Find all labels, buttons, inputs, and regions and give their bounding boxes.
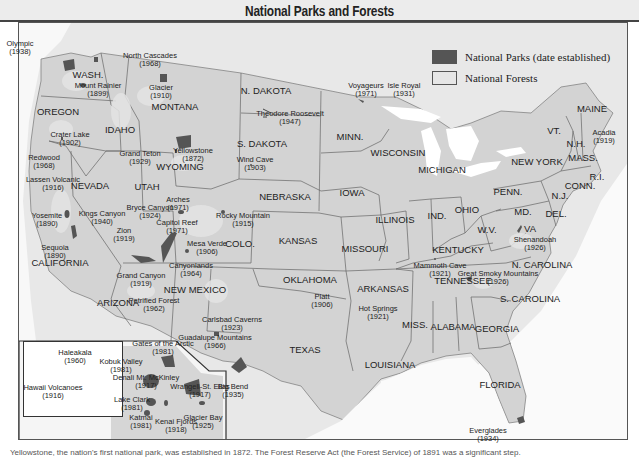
park-label: Sequoia(1890): [41, 244, 69, 260]
park-year: (1971): [166, 204, 189, 212]
park-label: Shenandoah(1926): [514, 236, 557, 252]
park-label: Grand Teton(1929): [119, 150, 160, 166]
park-label: Katmai(1981): [129, 414, 152, 430]
park-label: Platt(1906): [311, 293, 333, 309]
park-label: Denali Mt. McKinley(1917): [113, 374, 179, 390]
state-label: N.J.: [552, 191, 569, 201]
park-year: (1940): [79, 218, 126, 226]
park-label: Hot Springs(1921): [358, 305, 397, 321]
state-label: ALABAMA: [431, 322, 476, 332]
park-label: Redwood(1968): [28, 154, 60, 170]
park-year: (1971): [348, 90, 383, 98]
park-year: (1899): [75, 90, 122, 98]
park-year: (1926): [514, 244, 557, 252]
national-forests-swatch: [432, 71, 457, 85]
park-year: (1921): [358, 313, 397, 321]
park-label: Kobuk Valley(1981): [99, 358, 142, 374]
park-year: (1906): [187, 248, 227, 256]
state-label: DEL.: [545, 209, 566, 219]
park-year: (1917): [170, 391, 229, 399]
park-year: (1916): [23, 392, 82, 400]
state-label: WASH.: [73, 70, 104, 80]
state-label: UTAH: [134, 182, 159, 192]
park-year: (1947): [256, 118, 324, 126]
state-label: MINN.: [337, 132, 364, 142]
park-year: (1906): [311, 301, 333, 309]
park-label: Crater Lake(1902): [50, 131, 89, 147]
map-title: National Parks and Forests: [48, 3, 591, 19]
park-year: (1925): [184, 422, 223, 430]
state-label: OHIO: [455, 205, 479, 215]
park-year: (1926): [458, 278, 538, 286]
park-label: Zion(1919): [113, 227, 135, 243]
park-year: (1919): [113, 235, 135, 243]
state-label: MASS.: [568, 153, 598, 163]
national-parks-swatch: [432, 50, 457, 64]
park-label: Glacier Bay(1925): [184, 414, 223, 430]
park-year: (1938): [6, 48, 33, 56]
park-label: Acadia(1919): [593, 129, 616, 145]
park-year: (1915): [216, 220, 270, 228]
state-label: VT.: [547, 126, 561, 136]
state-label: KANSAS: [279, 236, 318, 246]
state-label: OREGON: [37, 107, 79, 117]
state-label: KENTUCKY: [432, 245, 484, 255]
state-label: MICHIGAN: [418, 165, 466, 175]
park-year: (1981): [129, 422, 152, 430]
park-year: (1903): [237, 164, 274, 172]
park-year: (1890): [32, 220, 63, 228]
park-year: (1981): [114, 404, 150, 412]
park-label: Lassen Volcanic(1916): [26, 176, 80, 192]
state-label: WYOMING: [156, 162, 204, 172]
park-year: (1971): [156, 227, 197, 235]
state-label: VA: [524, 224, 536, 234]
park-year: (1919): [593, 137, 616, 145]
park-year: (1917): [113, 382, 179, 390]
state-label: IOWA: [340, 188, 365, 198]
state-label: W.V.: [477, 225, 496, 235]
state-label: MD.: [514, 207, 531, 217]
legend-label: National Forests: [465, 72, 537, 84]
state-label: ILLINOIS: [375, 215, 414, 225]
park-label: Haleakala(1960): [58, 349, 91, 365]
park-year: (1968): [28, 162, 60, 170]
park-label: Mount Rainier(1899): [75, 82, 122, 98]
state-label: N.H.: [567, 139, 586, 149]
state-label: S. CAROLINA: [500, 294, 560, 304]
park-year: (1960): [58, 357, 91, 365]
state-label: FLORIDA: [479, 380, 520, 390]
park-year: (1923): [202, 324, 262, 332]
park-label: Grand Canyon(1919): [117, 272, 166, 288]
park-label: Carlsbad Caverns(1923): [202, 316, 262, 332]
state-label: NEW MEXICO: [164, 285, 226, 295]
state-label: TEXAS: [289, 345, 320, 355]
state-label: MAINE: [577, 104, 607, 114]
park-year: (1890): [41, 252, 69, 260]
park-label: Wind Cave(1903): [237, 156, 274, 172]
legend-item-national-parks: National Parks (date established): [432, 48, 610, 66]
state-label: CONN.: [565, 181, 596, 191]
park-year: (1964): [169, 270, 213, 278]
state-label: NEW YORK: [511, 157, 563, 167]
park-year: (1910): [149, 92, 173, 100]
title-bar: National Parks and Forests: [0, 0, 639, 22]
state-label: IND.: [428, 211, 447, 221]
state-label: MISSOURI: [342, 244, 389, 254]
park-label: Yosemite(1890): [32, 212, 63, 228]
park-label: Gates of the Arctic(1981): [132, 340, 193, 356]
park-label: Rocky Mountain(1915): [216, 212, 270, 228]
park-label: Theodore Roosevelt(1947): [256, 110, 324, 126]
state-label: ARKANSAS: [357, 284, 409, 294]
park-year: (1902): [50, 139, 89, 147]
park-year: (1929): [119, 158, 160, 166]
park-label: Voyageurs(1971): [348, 82, 383, 98]
park-label: Olympic(1938): [6, 40, 33, 56]
state-label: IDAHO: [105, 125, 135, 135]
state-label: GEORGIA: [475, 324, 519, 334]
park-label: Petrified Forest(1962): [129, 297, 180, 313]
park-label: Everglades(1934): [469, 427, 507, 443]
state-label: PENN.: [493, 187, 522, 197]
park-year: (1962): [129, 305, 180, 313]
park-label: Mesa Verde(1906): [187, 240, 227, 256]
state-label: MONTANA: [152, 102, 199, 112]
